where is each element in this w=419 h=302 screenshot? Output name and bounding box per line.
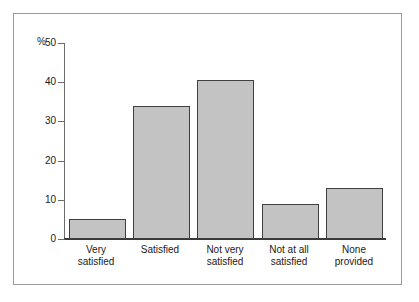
y-axis-tick-label-wrap: 20: [14, 156, 56, 166]
y-axis-tick-mark: [58, 239, 65, 240]
y-axis-tick-label: 50: [18, 38, 56, 48]
y-axis-tick-label: 40: [18, 77, 56, 87]
y-axis-tick-label: 0: [18, 234, 56, 244]
y-axis-tick-mark: [58, 121, 65, 122]
figure-frame: % 01020304050 VerysatisfiedSatisfiedNot …: [13, 13, 402, 285]
y-axis-tick-label: 10: [18, 195, 56, 205]
x-axis-label: Not verysatisfied: [193, 244, 257, 267]
x-axis-label: Noneprovided: [322, 244, 386, 267]
bar: [197, 80, 254, 239]
y-axis-tick-label-wrap: 50: [14, 38, 56, 48]
bar-chart: % 01020304050 VerysatisfiedSatisfiedNot …: [14, 14, 403, 286]
x-axis-label-line: Not very: [193, 244, 257, 256]
x-axis-label: Not at allsatisfied: [257, 244, 321, 267]
y-axis-tick-label-wrap: 30: [14, 116, 56, 126]
x-axis-label-line: satisfied: [257, 256, 321, 268]
y-axis-line: [64, 43, 65, 239]
y-axis-tick-mark: [58, 82, 65, 83]
bar: [69, 219, 126, 239]
y-axis-tick-mark: [58, 43, 65, 44]
y-axis-tick-label: 20: [18, 156, 56, 166]
x-axis-label-line: Not at all: [257, 244, 321, 256]
x-axis-label-line: None: [322, 244, 386, 256]
bar: [326, 188, 383, 239]
x-axis-label: Satisfied: [128, 244, 192, 256]
bar: [133, 106, 190, 239]
x-axis-label: Verysatisfied: [64, 244, 128, 267]
y-axis-tick-mark: [58, 161, 65, 162]
y-axis-tick-label: 30: [18, 116, 56, 126]
y-axis-tick-label-wrap: 10: [14, 195, 56, 205]
y-axis-tick-label-wrap: 0: [14, 234, 56, 244]
x-axis-label-line: satisfied: [64, 256, 128, 268]
bar: [262, 204, 319, 239]
y-axis-tick-mark: [58, 200, 65, 201]
x-axis-label-line: Satisfied: [128, 244, 192, 256]
x-axis-label-line: Very: [64, 244, 128, 256]
x-axis-label-line: satisfied: [193, 256, 257, 268]
y-axis-tick-label-wrap: 40: [14, 77, 56, 87]
x-axis-label-line: provided: [322, 256, 386, 268]
